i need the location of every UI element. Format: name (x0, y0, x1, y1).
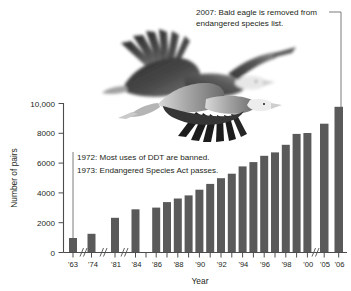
x-tick-label-06: '06 (335, 260, 345, 269)
esa-note-line: 1973: Endangered Species Act passes. (77, 166, 218, 175)
y-tick-label-4000: 4000 (37, 189, 56, 198)
y-tick-label-8000: 8000 (37, 129, 56, 138)
x-tick-label-05: '05 (320, 260, 330, 269)
y-tick-label-6000: 6000 (37, 159, 56, 168)
x-tick-label-96: '96 (260, 260, 270, 269)
delisting-note-line1: 2007: Bald eagle is removed from (196, 8, 317, 17)
table-row (271, 152, 279, 252)
x-tick-label-00: '00 (303, 260, 313, 269)
delisting-note-line2: endangered species list. (196, 19, 283, 28)
table-row (152, 208, 160, 253)
table-row (303, 133, 311, 253)
x-tick-label-86: '86 (152, 260, 162, 269)
table-row (239, 166, 247, 252)
table-row (69, 238, 77, 253)
table-row (163, 202, 171, 252)
table-row (174, 199, 182, 253)
table-row (185, 195, 193, 252)
bald-eagle-chart-figure: 2007: Bald eagle is removed from endange… (0, 0, 351, 291)
x-axis-title: Year (192, 276, 209, 286)
table-row (228, 174, 236, 253)
table-row (282, 145, 290, 253)
x-tick-label-98: '98 (282, 260, 292, 269)
table-row (335, 107, 344, 253)
y-tick-label-0: 0 (50, 249, 55, 258)
x-tick-label-92: '92 (217, 260, 227, 269)
table-row (260, 156, 268, 253)
x-tick-label-90: '90 (195, 260, 205, 269)
x-tick-label-74: '74 (88, 260, 98, 269)
table-row (111, 218, 119, 253)
table-row (195, 190, 203, 253)
x-tick-label-81: '81 (111, 260, 121, 269)
table-row (217, 178, 225, 252)
ddt-note-line: 1972: Most uses of DDT are banned. (77, 153, 210, 162)
x-tick-label-94: '94 (238, 260, 248, 269)
table-row (206, 184, 214, 253)
table-row (293, 134, 301, 253)
y-axis-title: Number of pairs (9, 148, 19, 208)
y-tick-label-2000: 2000 (37, 219, 56, 228)
table-row (88, 234, 96, 253)
y-tick-label-10000: 10,000 (30, 100, 55, 109)
x-tick-label-63: '63 (68, 260, 78, 269)
x-tick-label-88: '88 (174, 260, 184, 269)
x-tick-label-84: '84 (132, 260, 142, 269)
table-row (132, 209, 140, 252)
table-row (249, 162, 257, 252)
table-row (320, 124, 329, 253)
